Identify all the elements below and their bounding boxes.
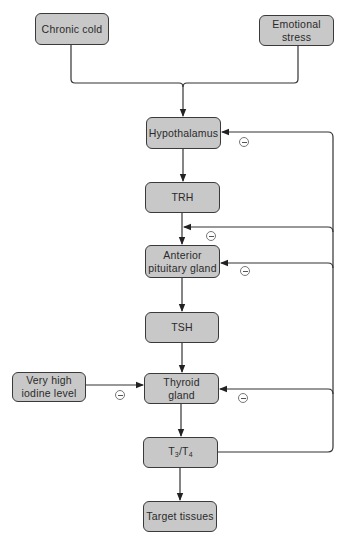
inhibit-sign-hypothalamus <box>239 137 249 147</box>
node-label-line2: pituitary gland <box>148 262 216 275</box>
node-label: TRH <box>171 191 193 204</box>
inhibit-sign-iodine <box>115 390 125 400</box>
node-thyroid-gland: Thyroid gland <box>144 373 219 404</box>
node-label-line1: Emotional <box>272 18 321 31</box>
node-label-line1: Thyroid <box>163 376 199 389</box>
node-label: TSH <box>171 321 193 334</box>
node-t3-t4: T3/T4 <box>143 437 218 468</box>
node-label-line2: gland <box>168 389 195 402</box>
node-label: T3/T4 <box>168 445 193 461</box>
node-hypothalamus: Hypothalamus <box>146 117 221 149</box>
node-label-line2: iodine level <box>22 387 77 400</box>
edge-emotional-stress <box>183 46 298 87</box>
node-tsh: TSH <box>145 312 219 343</box>
inhibit-sign-thyroid <box>238 393 248 403</box>
node-label: Chronic cold <box>42 23 103 36</box>
node-label-line1: Anterior <box>163 249 201 262</box>
node-label: Hypothalamus <box>149 127 219 140</box>
node-chronic-cold: Chronic cold <box>35 13 109 45</box>
inhibit-sign-anterior-pituitary <box>240 266 250 276</box>
node-very-high-iodine: Very high iodine level <box>12 372 86 402</box>
node-label-line1: Very high <box>26 374 72 387</box>
node-label: Target tissues <box>146 510 214 523</box>
node-emotional-stress: Emotional stress <box>259 15 334 46</box>
node-anterior-pituitary: Anterior pituitary gland <box>145 245 220 278</box>
node-label-line2: stress <box>282 31 311 44</box>
node-trh: TRH <box>145 182 220 213</box>
node-target-tissues: Target tissues <box>143 501 217 532</box>
inhibit-sign-trh <box>206 231 216 241</box>
edge-chronic-cold <box>71 45 183 87</box>
